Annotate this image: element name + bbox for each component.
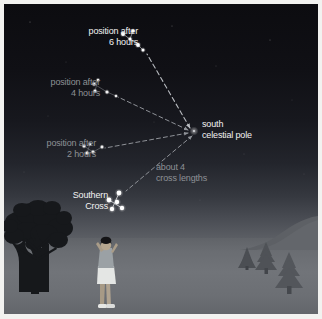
night-sky-scene: position after 6 hours position after 4 …	[4, 4, 318, 314]
arrow-to-southern-cross	[126, 136, 192, 191]
conifer-medium	[255, 242, 277, 274]
cross-position-2-hours	[81, 141, 105, 156]
southern-cross-constellation	[104, 188, 126, 213]
broadleaf-tree-silhouette	[4, 200, 73, 294]
background-starfield	[24, 22, 305, 201]
figure-frame: position after 6 hours position after 4 …	[0, 0, 322, 319]
arrow-to-4-hours	[118, 97, 188, 130]
cross-position-4-hours	[91, 77, 118, 98]
south-celestial-pole-marker	[190, 127, 199, 136]
conifer-large	[275, 252, 303, 294]
rotation-arrows	[105, 54, 192, 191]
cross-position-6-hours	[119, 28, 146, 53]
arrow-to-6-hours	[147, 54, 190, 128]
person-looking-up	[96, 237, 118, 308]
arrow-to-2-hours	[105, 133, 188, 148]
sky-objects-layer	[4, 4, 318, 314]
conifer-small-far	[238, 247, 256, 270]
